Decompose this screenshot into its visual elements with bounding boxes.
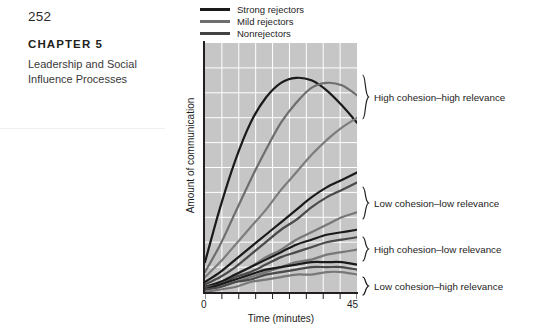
legend-item: Nonrejectors: [200, 28, 304, 39]
y-axis: [203, 41, 205, 294]
legend-item: Strong rejectors: [200, 4, 304, 15]
annotation-low-cohesion-high-relevance: Low cohesion–high relevance: [361, 276, 503, 296]
plot-area: [205, 43, 357, 292]
x-tick-label-max: 45: [347, 299, 358, 310]
annotation-label: High cohesion–high relevance: [374, 92, 505, 103]
legend-item: Mild rejectors: [200, 16, 304, 27]
data-curves: [205, 43, 357, 292]
figure: Strong rejectors Mild rejectors Nonrejec…: [165, 0, 541, 333]
chapter-label: CHAPTER 5: [28, 38, 158, 50]
annotation-label: Low cohesion–high relevance: [374, 281, 503, 292]
brace-icon: [361, 74, 370, 120]
brace-icon: [361, 276, 370, 296]
page-number: 252: [28, 10, 158, 25]
annotation-low-cohesion-low-relevance: Low cohesion–low relevance: [361, 186, 499, 220]
chapter-title: Leadership and Social Influence Processe…: [28, 57, 158, 88]
annotation-label: High cohesion–low relevance: [374, 244, 501, 255]
page-header: 252 CHAPTER 5 Leadership and Social Infl…: [28, 10, 158, 88]
x-axis-ticks: [205, 294, 357, 299]
annotation-label: Low cohesion–low relevance: [374, 198, 499, 209]
brace-icon: [361, 236, 370, 262]
legend-swatch-strong-rejectors: [200, 8, 230, 12]
legend-swatch-mild-rejectors: [200, 20, 230, 24]
x-tick-label-min: 0: [201, 299, 207, 310]
y-axis-label: Amount of communication: [185, 76, 196, 236]
legend-label: Nonrejectors: [237, 28, 291, 39]
brace-icon: [361, 186, 370, 220]
annotation-high-cohesion-high-relevance: High cohesion–high relevance: [361, 74, 505, 120]
legend-swatch-nonrejectors: [200, 32, 230, 36]
page-divider: [0, 128, 165, 129]
x-axis-label: Time (minutes): [205, 313, 357, 324]
chart-legend: Strong rejectors Mild rejectors Nonrejec…: [200, 4, 304, 40]
annotation-high-cohesion-low-relevance: High cohesion–low relevance: [361, 236, 501, 262]
legend-label: Strong rejectors: [237, 4, 304, 15]
legend-label: Mild rejectors: [237, 16, 294, 27]
